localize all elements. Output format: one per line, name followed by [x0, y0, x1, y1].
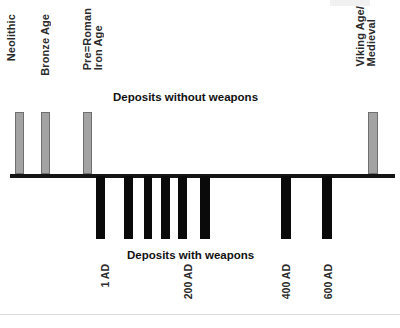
- bar-without-weapons: [15, 112, 24, 174]
- bar-with-weapons: [322, 176, 332, 239]
- bar-without-weapons: [41, 112, 50, 174]
- bar-without-weapons: [368, 112, 378, 174]
- category-label-bronze-age: Bronze Age: [40, 14, 51, 76]
- category-label-pre-roman-iron-age: Pre=Roman Iron Age: [82, 8, 104, 70]
- tick-label-400ad: 400 AD: [281, 264, 292, 299]
- tick-label-200ad: 200 AD: [183, 264, 194, 299]
- bar-with-weapons: [161, 176, 170, 239]
- tick-label-600ad: 600 AD: [323, 264, 334, 299]
- tick-label-1ad: 1 AD: [100, 264, 111, 288]
- bar-with-weapons: [178, 176, 187, 239]
- bar-with-weapons: [281, 176, 291, 239]
- bar-with-weapons: [200, 176, 210, 239]
- category-label-viking-age-medieval: Viking Age/ Medieval: [355, 6, 377, 66]
- chart-canvas: Neolithic Bronze Age Pre=Roman Iron Age …: [0, 0, 400, 328]
- bar-with-weapons: [124, 176, 133, 239]
- footer-divider: [0, 314, 400, 315]
- category-label-neolithic: Neolithic: [6, 14, 17, 61]
- series-caption-without-weapons: Deposits without weapons: [113, 91, 258, 103]
- series-caption-with-weapons: Deposits with weapons: [127, 249, 254, 261]
- cropped-footer-text: [150, 319, 390, 327]
- bar-with-weapons: [96, 176, 105, 239]
- bar-without-weapons: [83, 112, 92, 174]
- bar-with-weapons: [144, 176, 152, 239]
